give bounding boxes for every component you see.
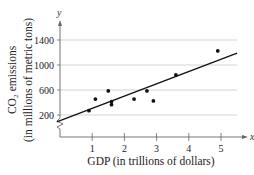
data-point <box>106 89 110 93</box>
y-tick-label: 600 <box>39 85 54 96</box>
y-axis-variable: y <box>56 7 62 18</box>
y-axis-arrow-icon <box>58 20 62 26</box>
regression-line <box>57 53 237 122</box>
x-tick-label: 1 <box>90 143 95 154</box>
data-point <box>87 109 91 113</box>
x-tick-label: 4 <box>186 143 191 154</box>
x-axis-title: GDP (in trillions of dollars) <box>87 155 215 168</box>
data-point <box>145 89 149 93</box>
gridlines <box>60 40 237 115</box>
x-ticks: 12345 <box>90 133 224 154</box>
data-point <box>174 73 178 77</box>
y-tick-label: 200 <box>39 110 54 121</box>
y-ticks: 20060010001400 <box>34 35 60 121</box>
x-tick-label: 5 <box>219 143 224 154</box>
scatter-chart: 12345 20060010001400 x y GDP (in trillio… <box>0 0 254 175</box>
data-point <box>110 103 114 107</box>
y-axis-title-line2: (in millions of metric tons) <box>22 18 35 142</box>
data-point <box>132 97 136 101</box>
x-tick-label: 3 <box>154 143 159 154</box>
x-tick-label: 2 <box>122 143 127 154</box>
y-tick-label: 1400 <box>34 35 54 46</box>
x-axis-variable: x <box>249 131 254 142</box>
data-point <box>94 97 98 101</box>
y-axis-title-line1: CO₂ emissions <box>6 45 18 114</box>
data-point <box>151 99 155 103</box>
axes <box>57 20 248 139</box>
x-axis-arrow-icon <box>242 135 248 139</box>
y-tick-label: 1000 <box>34 60 54 71</box>
data-point <box>216 49 220 53</box>
